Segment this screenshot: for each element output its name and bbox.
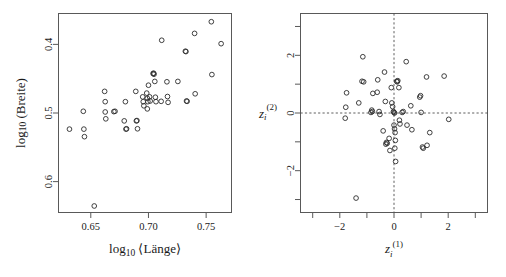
data-point <box>392 146 397 151</box>
data-point <box>393 159 398 164</box>
right-y-tick-label: 0 <box>285 110 296 115</box>
figure-container: 0.650.700.750.60.50.4log10 ⟨Länge⟩log10 … <box>0 0 506 277</box>
right-panel-svg: −202−202zi(1)zi(2) <box>0 0 506 277</box>
data-point <box>381 129 386 134</box>
data-point <box>360 54 365 59</box>
right-data-points <box>343 54 451 200</box>
right-y-tick-label: −2 <box>285 165 296 176</box>
data-point <box>382 70 387 75</box>
data-point <box>393 138 398 143</box>
data-point <box>383 99 388 104</box>
data-point <box>343 105 348 110</box>
right-x-axis-label: zi(1) <box>384 239 403 259</box>
data-point <box>446 117 451 122</box>
data-point <box>410 127 415 132</box>
data-point <box>344 90 349 95</box>
right-y-tick-label-group: 0 <box>285 110 296 115</box>
data-point <box>424 75 429 80</box>
data-point <box>387 136 392 141</box>
data-point <box>418 93 423 98</box>
right-y-tick-label: 2 <box>285 53 296 58</box>
right-y-tick-label-group: −2 <box>285 165 296 176</box>
data-point <box>442 74 447 79</box>
data-point <box>397 85 402 90</box>
right-x-tick-label: 0 <box>391 221 396 232</box>
data-point <box>389 85 394 90</box>
right-panel: −202−202zi(1)zi(2) <box>0 0 506 277</box>
data-point <box>419 110 424 115</box>
data-point <box>425 143 430 148</box>
svg-text:zi(2): zi(2) <box>258 102 277 122</box>
data-point <box>388 148 393 153</box>
right-x-tick-label: −2 <box>334 221 345 232</box>
svg-text:zi(1): zi(1) <box>384 239 403 259</box>
data-point <box>404 59 409 64</box>
right-y-tick-label-group: 2 <box>285 53 296 58</box>
data-point <box>405 123 410 128</box>
right-x-tick-label: 2 <box>446 221 451 232</box>
data-point <box>408 103 413 108</box>
data-point <box>356 101 361 106</box>
data-point <box>375 77 380 82</box>
data-point <box>427 130 432 135</box>
right-y-axis-label: zi(2) <box>258 102 277 122</box>
data-point <box>343 116 348 121</box>
data-point <box>354 196 359 201</box>
data-point <box>375 90 380 95</box>
